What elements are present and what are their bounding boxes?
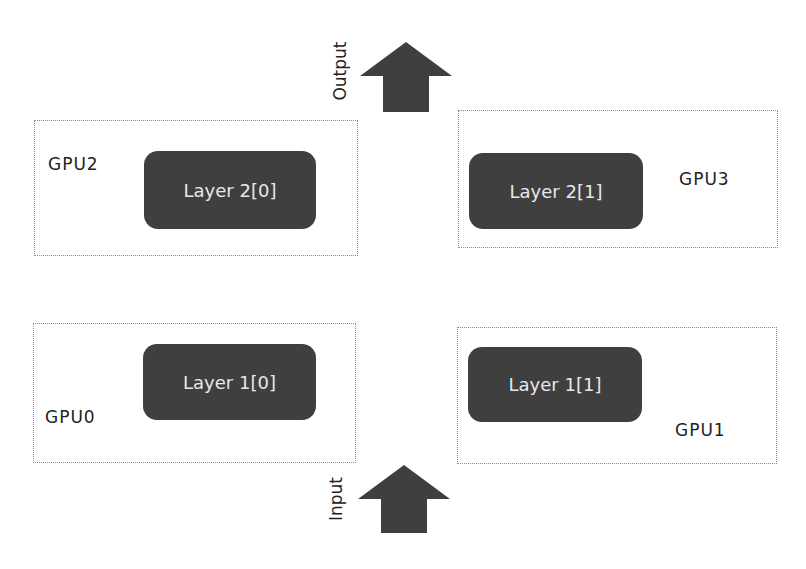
layer-2-0-block: Layer 2[0] — [144, 151, 316, 229]
gpu2-box: GPU2 Layer 2[0] — [34, 120, 358, 256]
layer-1-1-block: Layer 1[1] — [468, 347, 642, 422]
gpu3-box: Layer 2[1] GPU3 — [458, 110, 778, 248]
input-up-arrow-icon — [358, 465, 450, 533]
gpu0-label: GPU0 — [45, 407, 96, 427]
gpu2-label: GPU2 — [48, 154, 99, 174]
input-label: Input — [326, 464, 348, 534]
gpu1-label: GPU1 — [675, 420, 726, 440]
gpu1-box: Layer 1[1] GPU1 — [457, 327, 777, 464]
output-label: Output — [330, 36, 352, 106]
layer-1-0-block: Layer 1[0] — [143, 344, 316, 420]
output-up-arrow-icon — [360, 42, 452, 112]
layer-2-1-block: Layer 2[1] — [469, 153, 643, 229]
gpu3-label: GPU3 — [679, 169, 730, 189]
gpu0-box: Layer 1[0] GPU0 — [33, 323, 356, 463]
